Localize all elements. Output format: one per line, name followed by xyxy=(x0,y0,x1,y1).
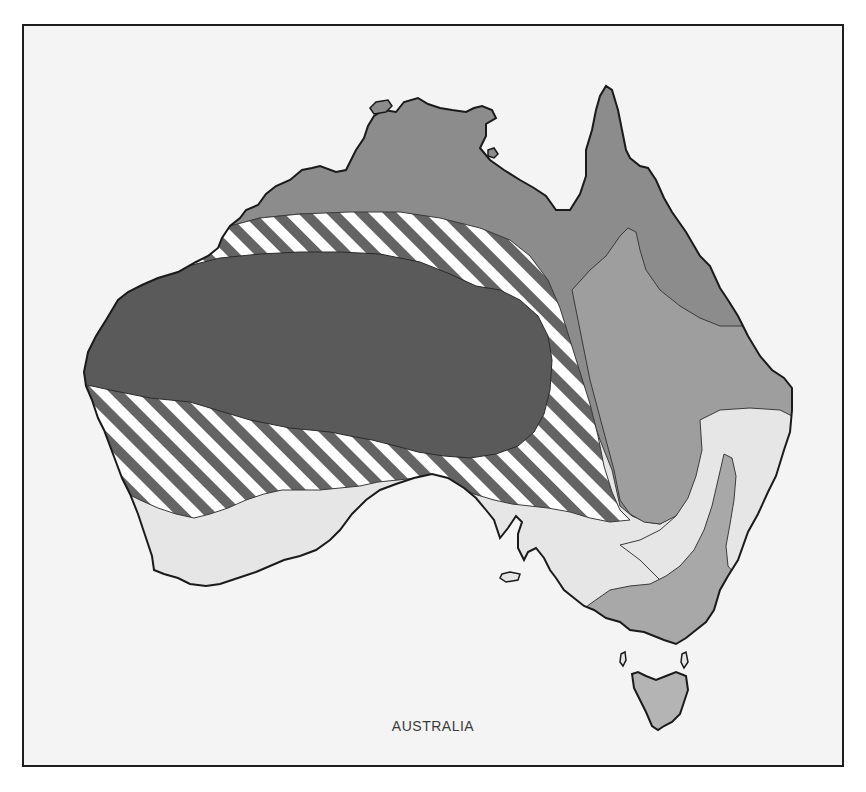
island-kangaroo xyxy=(500,572,520,582)
map-title: AUSTRALIA xyxy=(0,718,866,734)
zones xyxy=(0,0,866,792)
island-groote xyxy=(488,148,498,158)
island-flinders xyxy=(681,652,688,668)
australia-map xyxy=(0,0,866,792)
island-bass-strait-west xyxy=(620,652,626,666)
